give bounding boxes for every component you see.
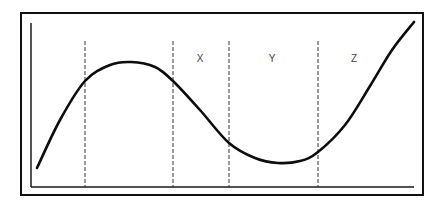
region-label-y: Y — [269, 53, 276, 64]
diagram: X Y Z — [0, 0, 446, 203]
outer-frame — [21, 13, 423, 195]
region-label-x: X — [197, 53, 204, 64]
curve-line — [37, 22, 414, 168]
region-label-z: Z — [351, 53, 357, 64]
